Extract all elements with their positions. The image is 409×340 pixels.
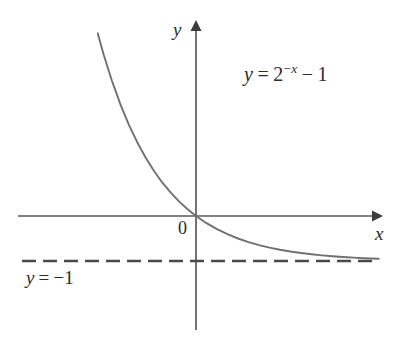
equation-constant: 1 <box>318 63 328 85</box>
equation-lhs: y <box>244 63 253 85</box>
graph-canvas <box>0 0 409 340</box>
y-axis-arrowhead-icon <box>191 20 202 31</box>
x-axis-arrowhead-icon <box>372 211 383 222</box>
origin-label: 0 <box>178 219 187 237</box>
equation-exponent-variable: x <box>291 61 297 76</box>
equation-base: 2 <box>273 63 283 85</box>
x-axis-label-text: x <box>375 223 383 244</box>
equation-equals: = <box>257 63 268 85</box>
asymptote-value: −1 <box>54 267 74 288</box>
origin-label-text: 0 <box>178 218 187 238</box>
asymptote-annotation: y=−1 <box>26 268 74 287</box>
asymptote-lhs: y <box>26 267 34 288</box>
equation-minus: − <box>302 63 313 85</box>
asymptote-equals: = <box>39 267 50 288</box>
function-curve <box>98 33 379 258</box>
equation-annotation: y=2−x−1 <box>244 62 328 84</box>
y-axis <box>191 20 202 330</box>
math-figure: y x 0 y=2−x−1 y=−1 <box>0 0 409 340</box>
x-axis-label: x <box>375 224 383 243</box>
y-axis-label-text: y <box>173 19 181 40</box>
y-axis-label: y <box>173 20 181 39</box>
equation-exponent: −x <box>284 61 298 76</box>
